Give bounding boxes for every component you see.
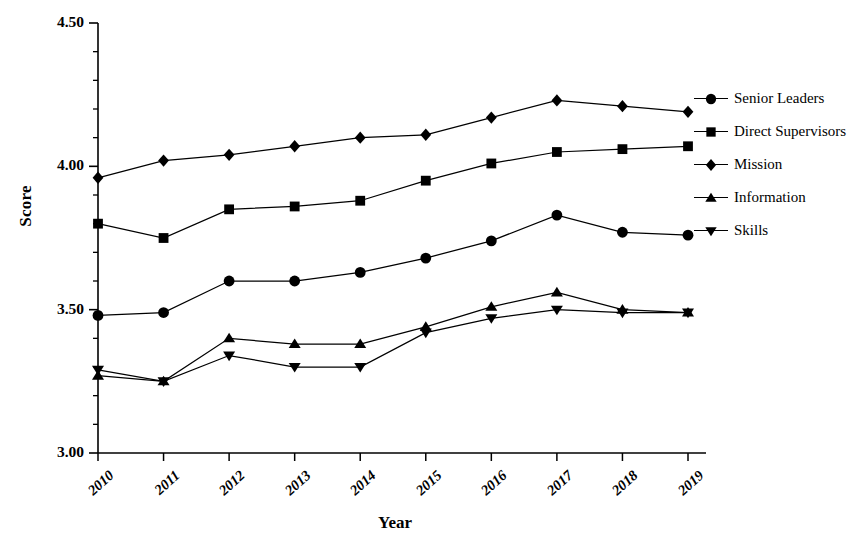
series-information bbox=[92, 287, 694, 385]
data-point bbox=[93, 172, 104, 184]
data-point bbox=[158, 377, 170, 387]
data-point bbox=[289, 276, 300, 287]
data-point bbox=[617, 227, 628, 238]
data-point bbox=[420, 253, 431, 264]
data-point bbox=[683, 230, 694, 241]
data-point bbox=[223, 333, 235, 343]
legend-label: Senior Leaders bbox=[728, 90, 824, 107]
x-axis-ticks bbox=[98, 453, 688, 461]
data-point bbox=[421, 176, 431, 186]
data-point bbox=[551, 94, 562, 106]
legend-item-information[interactable]: Information bbox=[694, 181, 859, 214]
data-point bbox=[354, 363, 366, 373]
data-point bbox=[93, 310, 104, 321]
data-point bbox=[224, 276, 235, 287]
legend-label: Skills bbox=[728, 222, 768, 239]
data-point bbox=[289, 140, 300, 152]
data-point bbox=[420, 129, 431, 141]
legend-marker-glyph bbox=[701, 155, 721, 175]
diamond-icon bbox=[694, 155, 728, 175]
chart-legend: Senior LeadersDirect SupervisorsMissionI… bbox=[694, 82, 859, 247]
triangle-down-icon bbox=[694, 221, 728, 241]
line-chart: Score Year 3.003.504.004.50 201020112012… bbox=[0, 0, 859, 553]
data-point bbox=[224, 149, 235, 161]
data-point bbox=[683, 106, 694, 118]
data-point bbox=[355, 196, 365, 206]
data-point bbox=[420, 329, 432, 339]
data-point bbox=[355, 267, 366, 278]
data-point bbox=[551, 210, 562, 221]
legend-label: Mission bbox=[728, 156, 782, 173]
data-point bbox=[158, 154, 169, 166]
data-point bbox=[159, 233, 169, 243]
data-point bbox=[617, 100, 628, 112]
legend-item-senior-leaders[interactable]: Senior Leaders bbox=[694, 82, 859, 115]
legend-label: Direct Supervisors bbox=[728, 123, 846, 140]
circle-icon bbox=[694, 89, 728, 109]
legend-marker-glyph bbox=[701, 89, 721, 109]
legend-item-mission[interactable]: Mission bbox=[694, 148, 859, 181]
data-point bbox=[355, 131, 366, 143]
data-point bbox=[289, 363, 301, 373]
series-mission bbox=[93, 94, 694, 184]
series-skills bbox=[92, 306, 694, 387]
data-point bbox=[486, 111, 497, 123]
data-point bbox=[551, 287, 563, 297]
data-point bbox=[552, 147, 562, 157]
legend-marker-glyph bbox=[701, 122, 721, 142]
legend-item-direct-supervisors[interactable]: Direct Supervisors bbox=[694, 115, 859, 148]
data-point bbox=[618, 144, 628, 154]
data-point bbox=[93, 219, 103, 229]
legend-item-skills[interactable]: Skills bbox=[694, 214, 859, 247]
square-icon bbox=[694, 122, 728, 142]
legend-marker-glyph bbox=[701, 188, 721, 208]
data-point bbox=[486, 235, 497, 246]
data-point bbox=[486, 159, 496, 169]
y-axis-ticks bbox=[89, 23, 98, 453]
data-point bbox=[158, 307, 169, 318]
data-point bbox=[290, 202, 300, 212]
axis-lines bbox=[98, 23, 706, 453]
data-point bbox=[224, 204, 234, 214]
data-point bbox=[682, 309, 694, 319]
data-point bbox=[683, 141, 693, 151]
triangle-up-icon bbox=[694, 188, 728, 208]
legend-label: Information bbox=[728, 189, 806, 206]
legend-marker-glyph bbox=[701, 221, 721, 241]
